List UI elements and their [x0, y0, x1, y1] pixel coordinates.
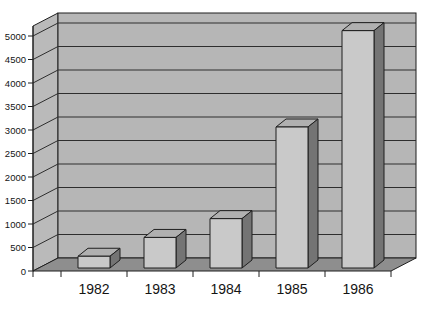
bar-front-face-1985: [276, 127, 308, 268]
y-axis-label-3000: 3000: [5, 125, 26, 136]
bar-1984: [210, 211, 252, 268]
y-axis-label-4000: 4000: [5, 78, 26, 89]
x-axis-label-1982: 1982: [78, 281, 109, 297]
bar-1986: [342, 23, 384, 268]
bar-front-face-1983: [144, 237, 176, 268]
y-axis-label-3500: 3500: [5, 101, 26, 112]
x-axis-label-1986: 1986: [342, 281, 373, 297]
y-axis-label-1000: 1000: [5, 219, 26, 230]
y-axis-label-2500: 2500: [5, 148, 26, 159]
y-axis-label-0: 0: [21, 266, 26, 277]
bar-front-face-1986: [342, 31, 374, 268]
bar-1985: [276, 119, 318, 268]
3d-bar-chart: 0500100015002000250030003500400045005000…: [0, 0, 435, 312]
x-axis-label-1983: 1983: [144, 281, 175, 297]
bar-side-face-1986: [374, 23, 384, 268]
y-axis-label-4500: 4500: [5, 54, 26, 65]
bar-side-face-1984: [242, 211, 252, 268]
bar-1982: [78, 248, 120, 268]
bar-front-face-1984: [210, 219, 242, 268]
x-axis-label-1984: 1984: [210, 281, 241, 297]
y-axis-label-1500: 1500: [5, 195, 26, 206]
bar-front-face-1982: [78, 256, 110, 268]
bar-side-face-1985: [308, 119, 318, 268]
bar-1983: [144, 229, 186, 268]
y-axis-label-500: 500: [10, 242, 26, 253]
chart-canvas: 0500100015002000250030003500400045005000…: [0, 0, 435, 312]
y-axis-label-5000: 5000: [5, 31, 26, 42]
x-axis-label-1985: 1985: [276, 281, 307, 297]
y-axis-label-2000: 2000: [5, 172, 26, 183]
